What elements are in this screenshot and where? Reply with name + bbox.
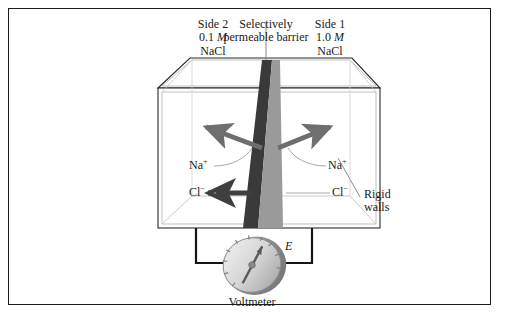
side2-salt: NaCl bbox=[198, 45, 228, 58]
side1-salt: NaCl bbox=[315, 45, 345, 58]
side1-conc-value: 1.0 bbox=[316, 30, 331, 44]
barrier-label-line2: permeable barrier bbox=[224, 31, 309, 44]
rigid-walls-label: Rigid walls bbox=[364, 188, 391, 215]
side1-concentration: 1.0 M bbox=[315, 31, 345, 44]
voltmeter-label: Voltmeter bbox=[228, 296, 275, 309]
side1-title: Side 1 bbox=[315, 18, 345, 31]
figure-canvas: Side 2 0.1 M NaCl Selectively permeable … bbox=[0, 0, 507, 328]
chloride-right-label: Cl− bbox=[332, 186, 348, 199]
diagram-graphics bbox=[0, 0, 507, 328]
barrier-label: Selectively permeable barrier bbox=[224, 18, 309, 45]
rigid-walls-line2: walls bbox=[364, 201, 391, 214]
barrier-label-line1: Selectively bbox=[224, 18, 309, 31]
sodium-left-label: Na+ bbox=[189, 159, 208, 172]
chloride-left-label: Cl− bbox=[189, 186, 205, 199]
rigid-walls-line1: Rigid bbox=[364, 188, 391, 201]
sodium-right-label: Na+ bbox=[328, 159, 347, 172]
side1-conc-unit: M bbox=[334, 30, 344, 44]
emf-symbol-label: E bbox=[285, 240, 292, 253]
voltmeter-gauge bbox=[215, 226, 295, 304]
side1-label: Side 1 1.0 M NaCl bbox=[315, 18, 345, 58]
side2-conc-value: 0.1 bbox=[199, 30, 214, 44]
